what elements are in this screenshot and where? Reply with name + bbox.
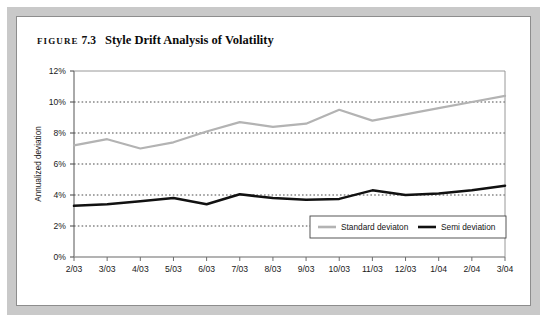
x-tick-label: 6/03	[198, 264, 215, 274]
y-tick-label: 12%	[49, 66, 67, 76]
legend-label-standard-deviaton: Standard deviaton	[341, 222, 409, 232]
x-tick-label: 11/03	[362, 264, 383, 274]
y-tick-label: 10%	[49, 97, 67, 107]
series-line-semi-deviation	[74, 186, 505, 206]
x-tick-label: 4/03	[132, 264, 149, 274]
x-tick-label: 9/03	[298, 264, 315, 274]
x-tick-label: 3/04	[497, 264, 514, 274]
x-tick-label: 12/03	[395, 264, 417, 274]
figure-card: FIGURE7.3Style Drift Analysis of Volatil…	[0, 0, 547, 322]
y-tick-label: 0%	[54, 252, 67, 262]
y-axis-label-group: Annualized deviation	[34, 126, 43, 202]
y-tick-labels-group: 0%2%4%6%8%10%12%	[49, 66, 67, 262]
x-tick-label: 1/04	[430, 264, 447, 274]
x-tick-label: 5/03	[165, 264, 182, 274]
legend-label-semi-deviation: Semi deviation	[441, 222, 496, 232]
x-tick-labels-group: 2/033/034/035/036/037/038/039/0310/0311/…	[66, 264, 514, 274]
y-tick-label: 6%	[54, 159, 67, 169]
chart-svg: 0%2%4%6%8%10%12% 2/033/034/035/036/037/0…	[0, 0, 547, 322]
series-group	[74, 96, 505, 206]
y-tick-marks-group	[70, 71, 74, 257]
series-line-standard-deviaton	[74, 96, 505, 149]
gridlines-group	[74, 102, 505, 226]
x-tick-label: 8/03	[265, 264, 282, 274]
y-tick-label: 8%	[54, 128, 67, 138]
y-axis-label: Annualized deviation	[34, 126, 43, 202]
y-tick-label: 2%	[54, 221, 67, 231]
x-tick-label: 2/03	[66, 264, 83, 274]
x-tick-label: 7/03	[231, 264, 248, 274]
x-tick-label: 10/03	[328, 264, 350, 274]
y-tick-label: 4%	[54, 190, 67, 200]
x-tick-label: 2/04	[463, 264, 480, 274]
line-chart: 0%2%4%6%8%10%12% 2/033/034/035/036/037/0…	[0, 0, 547, 322]
x-tick-label: 3/03	[99, 264, 116, 274]
chart-legend: Standard deviaton Semi deviation	[310, 216, 506, 238]
